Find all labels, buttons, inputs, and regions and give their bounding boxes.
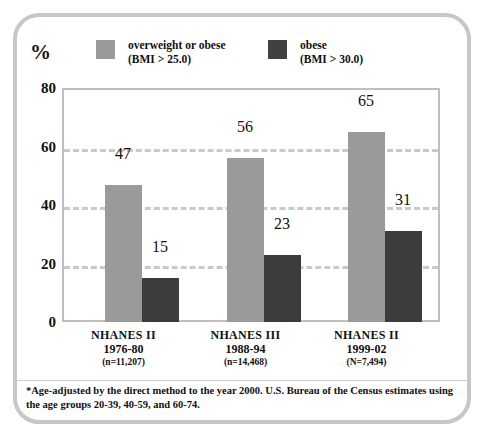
x-axis-label-group-1: NHANES II1976-80(n=11,207)	[54, 328, 194, 368]
legend-label-line1: overweight or obese	[128, 39, 226, 51]
x-axis-labels: NHANES II1976-80(n=11,207)NHANES III1988…	[62, 328, 440, 376]
bar-value-label-obese-2: 23	[259, 215, 305, 233]
chart-legend: overweight or obese (BMI > 25.0) obese (…	[96, 38, 446, 74]
y-tick-label-40: 40	[22, 197, 56, 214]
legend-item-obese: obese (BMI > 30.0)	[268, 38, 363, 66]
legend-label-obese: obese (BMI > 30.0)	[300, 38, 363, 66]
bar-value-label-obese-3: 31	[380, 191, 426, 209]
footnote-divider	[17, 380, 467, 381]
x-label-sample: (N=7,494)	[297, 356, 437, 368]
bar-obese-1	[142, 278, 179, 322]
legend-label-line2: (BMI > 25.0)	[128, 53, 191, 65]
legend-label-line1: obese	[300, 39, 327, 51]
footnote-text: *Age-adjusted by the direct method to th…	[26, 384, 458, 411]
x-axis-label-group-3: NHANES II1999-02(N=7,494)	[297, 328, 437, 368]
y-tick-label-60: 60	[22, 138, 56, 155]
bar-obese-2	[264, 255, 301, 322]
y-tick-label-20: 20	[22, 255, 56, 272]
bar-value-label-overweight-or-obese-2: 56	[222, 118, 268, 136]
x-label-survey: NHANES II	[297, 328, 437, 342]
y-tick-label-0: 0	[22, 314, 56, 331]
y-tick-label-80: 80	[22, 80, 56, 97]
x-label-years: 1999-02	[297, 342, 437, 356]
bar-obese-3	[385, 231, 422, 322]
legend-item-overweight-or-obese: overweight or obese (BMI > 25.0)	[96, 38, 226, 66]
x-label-sample: (n=11,207)	[54, 356, 194, 368]
bar-series-container: 471556236531	[62, 88, 440, 322]
x-label-survey: NHANES III	[176, 328, 316, 342]
bar-value-label-overweight-or-obese-1: 47	[100, 145, 146, 163]
legend-swatch-icon-obese	[268, 40, 287, 59]
y-axis-unit-label: %	[30, 40, 51, 65]
y-axis: 020406080	[20, 88, 56, 322]
x-axis-label-group-2: NHANES III1988-94(n=14,468)	[176, 328, 316, 368]
bar-value-label-overweight-or-obese-3: 65	[343, 92, 389, 110]
legend-swatch-icon-overweight-or-obese	[96, 40, 115, 59]
chart-figure: % overweight or obese (BMI > 25.0) obese…	[0, 0, 485, 440]
x-label-sample: (n=14,468)	[176, 356, 316, 368]
x-label-years: 1976-80	[54, 342, 194, 356]
bar-overweight-or-obese-2	[227, 158, 264, 322]
bar-value-label-obese-1: 15	[137, 238, 183, 256]
x-label-years: 1988-94	[176, 342, 316, 356]
bar-overweight-or-obese-3	[348, 132, 385, 322]
legend-label-overweight-or-obese: overweight or obese (BMI > 25.0)	[128, 38, 226, 66]
x-label-survey: NHANES II	[54, 328, 194, 342]
legend-label-line2: (BMI > 30.0)	[300, 53, 363, 65]
